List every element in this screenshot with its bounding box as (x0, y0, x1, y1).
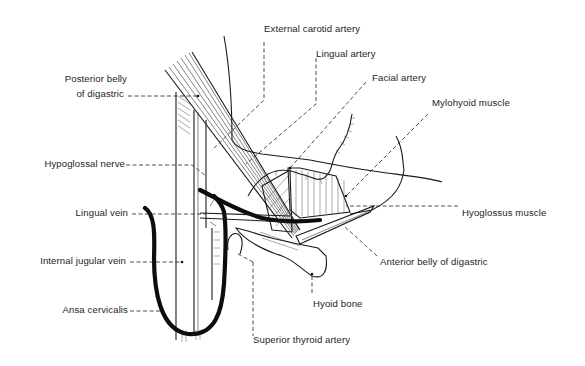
label-anterior-belly-of-digastric: Anterior belly of digastric (380, 256, 488, 268)
label-lingual-artery: Lingual artery (316, 48, 376, 60)
mandible-outline (224, 36, 442, 214)
label-hyoid-bone: Hyoid bone (313, 298, 363, 310)
neck-vessel-column (176, 92, 220, 342)
anatomy-diagram: External carotid artery Lingual artery F… (0, 0, 585, 366)
label-external-carotid-artery: External carotid artery (264, 23, 360, 35)
ansa-cervicalis (145, 196, 226, 334)
superior-thyroid-artery (228, 234, 242, 254)
posterior-belly-digastric (165, 52, 300, 238)
label-internal-jugular-vein: Internal jugular vein (10, 255, 126, 267)
label-superior-thyroid-artery: Superior thyroid artery (253, 334, 350, 346)
label-posterior-belly-line2: of digastric (40, 88, 124, 100)
label-ansa-cervicalis: Ansa cervicalis (20, 304, 128, 316)
label-facial-artery: Facial artery (372, 72, 426, 84)
label-posterior-belly-line1: Posterior belly (40, 73, 127, 85)
label-hyoglossus-muscle: Hyoglossus muscle (462, 207, 546, 219)
label-lingual-vein: Lingual vein (20, 207, 128, 219)
label-mylohyoid-muscle: Mylohyoid muscle (432, 97, 510, 109)
label-hypoglossal-nerve: Hypoglossal nerve (20, 158, 125, 170)
